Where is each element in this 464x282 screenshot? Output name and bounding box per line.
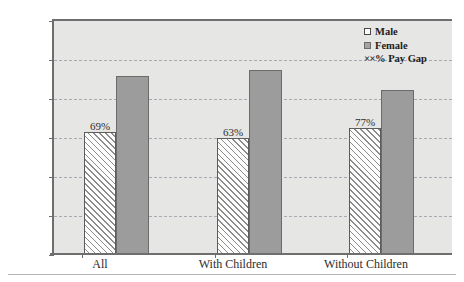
legend-swatch-female-icon — [364, 42, 371, 49]
bar-female-with-children — [249, 70, 282, 255]
xtick-label-all: All — [92, 258, 107, 270]
footer-divider — [8, 274, 456, 275]
xtick-mark-left-1 — [82, 253, 83, 258]
legend-item-male: Male — [364, 25, 427, 39]
legend-swatch-male-icon — [364, 28, 371, 35]
bar-group-with-children: 63% — [217, 21, 317, 255]
ytick-mark-600 — [49, 177, 54, 178]
xtick-label-with-children: With Children — [199, 258, 268, 270]
bar-label-with-children: 63% — [223, 127, 243, 138]
bar-label-without-children: 77% — [355, 117, 375, 128]
ytick-mark-900 — [49, 138, 54, 139]
legend-item-female: Female — [364, 39, 427, 53]
bar-male-all: 69% — [84, 132, 116, 256]
legend-item-pay-gap: ×× % Pay Gap — [364, 52, 427, 66]
x-axis-line — [50, 253, 452, 255]
ytick-mark-0 — [49, 255, 54, 256]
legend-label-female: Female — [375, 39, 408, 53]
legend-label-pay-gap: % Pay Gap — [375, 52, 427, 66]
bar-female-all — [116, 76, 149, 255]
ytick-mark-1800 — [49, 21, 54, 22]
bar-male-with-children: 63% — [217, 138, 249, 255]
bar-group-all: 69% — [84, 21, 184, 255]
ytick-mark-1200 — [49, 99, 54, 100]
pay-gap-bar-chart: 69% 63% 77% Male Female — [0, 0, 464, 282]
plot-area: 69% 63% 77% Male Female — [52, 19, 452, 255]
bar-female-without-children — [381, 90, 414, 255]
pay-gap-placeholder-icon: ×× — [364, 52, 375, 66]
bar-male-without-children: 77% — [349, 128, 381, 255]
legend-label-male: Male — [375, 25, 398, 39]
bar-label-all: 69% — [90, 121, 110, 132]
ytick-mark-300 — [49, 216, 54, 217]
xtick-label-without-children: Without Children — [324, 258, 408, 270]
ytick-mark-1500 — [49, 60, 54, 61]
chart-legend: Male Female ×× % Pay Gap — [364, 25, 427, 66]
